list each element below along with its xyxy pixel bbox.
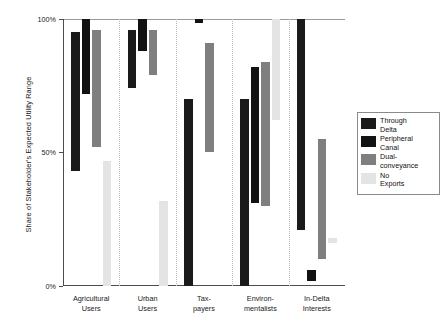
chart-canvas: Share of Stakeholder's Expected Utility … [0,0,444,334]
legend-label: Dual- conveyance [380,153,418,170]
legend-swatch [361,118,376,129]
legend-swatch [361,136,376,147]
y-axis-line [63,19,64,286]
legend-label: Through Delta [380,117,407,134]
x-axis-group-label: In-Delta Interests [277,294,357,313]
bar-range [318,139,327,259]
bar-range [240,99,249,286]
bar-range [251,67,260,203]
bar-range [307,270,316,281]
bar-range [82,19,91,94]
bar-range [149,30,158,75]
group-separator [119,19,120,286]
legend-swatch [361,154,376,165]
bar-range [328,238,337,243]
legend-item[interactable]: Peripheral Canal [361,135,436,152]
legend-label: Peripheral Canal [380,135,413,152]
y-tick [59,286,63,287]
bar-range [272,19,281,120]
bar-range [205,43,214,152]
y-tick [59,152,63,153]
y-tick-label: 50% [42,148,56,157]
legend-item[interactable]: Through Delta [361,117,436,134]
y-tick-label: 0% [46,282,56,291]
bar-range [261,62,270,206]
bar-range [92,30,101,147]
y-tick-label: 100% [38,15,56,24]
legend-label: No Exports [380,172,404,189]
legend: Through DeltaPeripheral CanalDual- conve… [357,112,440,195]
bar-range [128,30,137,89]
bar-range [184,99,193,286]
bar-range [195,19,204,23]
bar-range [297,19,306,230]
bar-range [138,19,147,51]
y-tick [59,19,63,20]
plot-area [63,19,345,286]
bar-range [103,161,112,286]
legend-item[interactable]: Dual- conveyance [361,153,436,170]
group-separator [289,19,290,286]
group-separator [232,19,233,286]
bar-range [71,32,80,171]
legend-item[interactable]: No Exports [361,172,436,189]
group-separator [176,19,177,286]
y-axis-title: Share of Stakeholder's Expected Utility … [24,40,33,270]
bar-range [159,201,168,286]
legend-swatch [361,173,376,184]
